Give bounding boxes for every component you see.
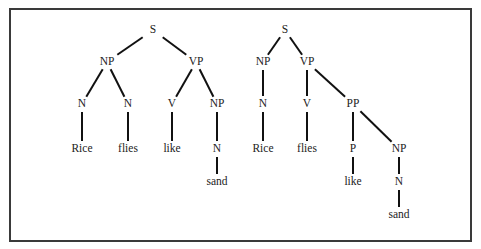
category-node: PP — [347, 97, 360, 109]
word-leaf: like — [344, 175, 361, 187]
tree-edge — [176, 69, 192, 97]
word-leaf: like — [163, 142, 180, 154]
parse-tree-1: SNPVPNNVNPRiceflieslikeNsand — [71, 23, 227, 187]
word-leaf: sand — [388, 208, 409, 220]
category-node: NP — [256, 55, 271, 67]
word-leaf: flies — [297, 142, 317, 154]
tree-edge — [315, 69, 345, 97]
category-node: N — [213, 142, 222, 154]
tree-edge — [200, 69, 214, 97]
category-node: N — [259, 97, 268, 109]
word-leaf: Rice — [252, 142, 273, 154]
tree-edge — [111, 69, 125, 97]
word-leaf: sand — [206, 175, 227, 187]
tree-edge — [360, 111, 391, 142]
parse-trees-diagram: SNPVPNNVNPRiceflieslikeNsand SNPVPNVPPRi… — [0, 0, 481, 249]
category-node: V — [168, 97, 177, 109]
tree-edge — [163, 37, 187, 55]
word-leaf: flies — [118, 142, 138, 154]
tree-edge — [290, 37, 302, 55]
category-node: V — [303, 97, 312, 109]
category-node: S — [150, 23, 156, 35]
category-node: VP — [300, 55, 315, 67]
category-node: N — [395, 175, 404, 187]
category-node: NP — [100, 55, 115, 67]
word-leaf: Rice — [71, 142, 92, 154]
category-node: NP — [392, 142, 407, 154]
category-node: N — [124, 97, 133, 109]
category-node: NP — [210, 97, 225, 109]
category-node: S — [282, 23, 288, 35]
tree-edge — [117, 37, 142, 55]
category-node: VP — [189, 55, 204, 67]
tree-edge — [86, 69, 102, 97]
tree-edge — [268, 37, 280, 55]
category-node: P — [350, 142, 356, 154]
parse-tree-2: SNPVPNVPPRicefliesPNPlikeNsand — [252, 23, 409, 220]
category-node: N — [78, 97, 87, 109]
